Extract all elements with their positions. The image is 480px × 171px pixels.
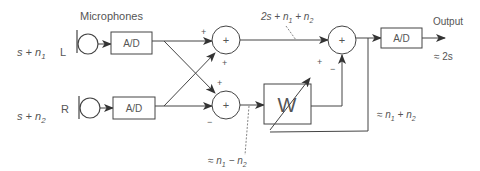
svg-text:+: + (223, 99, 229, 111)
svg-text:A/D: A/D (126, 103, 143, 114)
channel-right-label: R (61, 103, 69, 115)
microphone-right-icon (79, 96, 100, 119)
sum3-sign-bottom: − (330, 64, 335, 74)
sum1-sign-bottom: + (222, 58, 227, 68)
input-left-signal: s + n1 (17, 46, 46, 61)
microphone-left-icon (77, 30, 98, 54)
summing-junction-1: + (212, 26, 240, 54)
sum3-sign-left: + (317, 57, 322, 67)
sum1-sign-top: + (201, 27, 206, 37)
difference-signal-label: ≈ n1 − n2 (208, 155, 247, 168)
svg-text:+: + (223, 34, 229, 46)
svg-text:+: + (339, 34, 345, 46)
input-right-signal: s + n2 (17, 110, 46, 125)
sum2-sign-bottom: − (207, 117, 212, 127)
sum-signal-label: 2s + n1 + n2 (260, 11, 313, 24)
sum2-sign-top: + (217, 78, 222, 88)
adc-right-block: A/D (113, 97, 155, 119)
adc-left-block: A/D (111, 32, 152, 54)
output-value: ≈ 2s (434, 51, 453, 62)
svg-text:A/D: A/D (393, 33, 410, 44)
output-title: Output (433, 16, 463, 27)
noise-estimate-label: ≈ n1 + n2 (377, 109, 416, 122)
svg-text:A/D: A/D (123, 38, 140, 49)
adc-output-block: A/D (381, 28, 422, 48)
adaptive-filter-w-block: W (264, 84, 311, 124)
microphones-title: Microphones (80, 10, 143, 22)
channel-left-label: L (60, 46, 66, 58)
svg-text:W: W (278, 94, 297, 116)
summing-junction-2: + (212, 91, 240, 119)
summing-junction-3: + (328, 26, 356, 54)
adaptive-noise-cancellation-diagram: Microphones s + n1 s + n2 L R A/D A/D + … (0, 0, 480, 171)
